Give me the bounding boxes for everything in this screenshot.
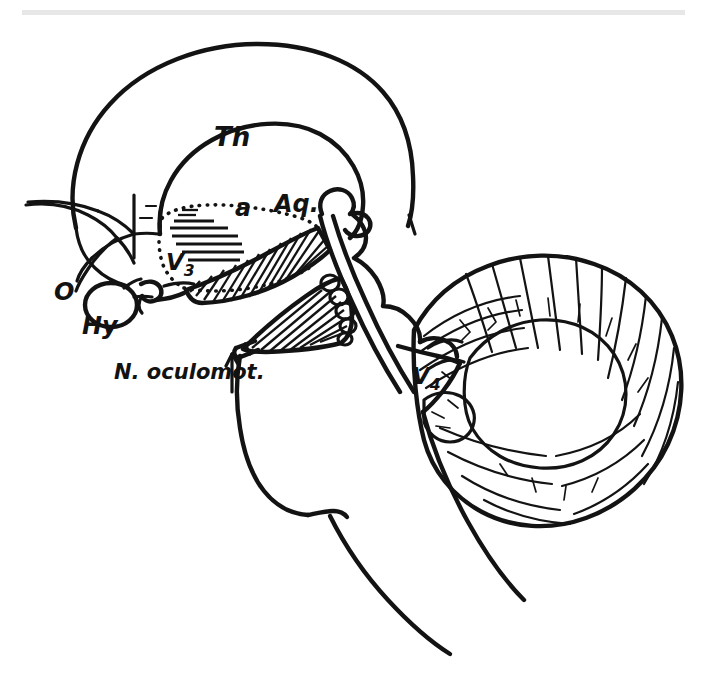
label-third-ventricle-letter: V [166, 249, 184, 275]
label-fourth-ventricle-subscript: 4 [430, 375, 441, 394]
oculomotor-nerve [234, 341, 258, 358]
label-fourth-ventricle: V4 [412, 365, 441, 392]
label-adhesio-interthalamica: a [235, 196, 251, 220]
label-fourth-ventricle-letter: V [412, 363, 430, 389]
label-oculomotor-nerve: N. oculomot. [114, 362, 265, 383]
brain-sagittal-diagram [0, 0, 707, 684]
cerebellum [414, 256, 682, 527]
label-optic-chiasm: O [54, 280, 74, 304]
tegmentum-hatching [190, 229, 328, 302]
figure-root: Th a Aq. V3 O Hy N. oculomot. V4 [0, 0, 707, 684]
label-thalamus: Th [214, 124, 250, 150]
cerebral-peduncle-fibres [243, 275, 356, 352]
label-aqueduct: Aq. [274, 192, 319, 216]
label-hypophysis: Hy [82, 314, 118, 338]
label-third-ventricle: V3 [166, 251, 195, 278]
label-third-ventricle-subscript: 3 [184, 261, 195, 280]
